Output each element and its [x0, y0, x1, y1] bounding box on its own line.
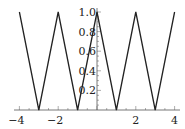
x-tick-label: −2 [47, 114, 63, 127]
x-tick-label: −4 [8, 114, 24, 127]
x-tick-label: 2 [132, 114, 139, 127]
y-tick-label: 0.4 [79, 65, 97, 78]
y-tick-label: 1.0 [79, 6, 97, 19]
y-tick-label: 0.6 [79, 45, 97, 58]
y-tick-labels: 0.20.40.60.81.0 [79, 6, 97, 97]
x-tick-label: 4 [171, 114, 178, 127]
x-tick-labels: −4−224 [8, 114, 178, 127]
chart-plot: −4−224 0.20.40.60.81.0 [0, 0, 185, 129]
